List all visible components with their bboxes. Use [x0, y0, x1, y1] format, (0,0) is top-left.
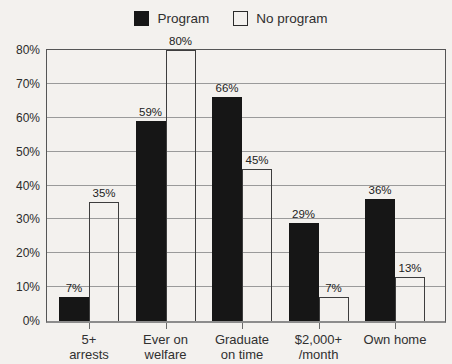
program-bar	[365, 199, 395, 321]
black-filled-square-icon	[134, 11, 149, 26]
program-bar	[212, 97, 242, 321]
bar-value-label: 36%	[358, 184, 402, 196]
no-program-bar	[319, 297, 349, 321]
no-program-bar	[395, 277, 425, 321]
bar-value-label: 66%	[205, 82, 249, 94]
program-bar	[59, 297, 89, 321]
gridline	[47, 151, 445, 152]
y-axis-label: 10%	[2, 280, 40, 294]
category-label: Own home	[349, 332, 441, 347]
y-axis-label: 30%	[2, 212, 40, 226]
chart-legend: Program No program	[10, 11, 452, 26]
program-bar	[289, 223, 319, 321]
y-axis-label: 50%	[2, 145, 40, 159]
white-outline-square-icon	[233, 11, 248, 26]
legend-item-no-program: No program	[233, 11, 327, 26]
bar-chart-plot-area: 0%10%20%30%40%50%60%70%80%7%35%5+ arrest…	[46, 49, 446, 323]
no-program-bar	[166, 50, 196, 321]
program-bar	[136, 121, 166, 321]
no-program-bar	[89, 202, 119, 321]
x-axis-tick	[319, 323, 320, 329]
x-axis-tick	[242, 323, 243, 329]
scanned-bar-chart-page: Program No program 0%10%20%30%40%50%60%7…	[0, 0, 452, 364]
legend-label-program: Program	[157, 11, 209, 26]
x-axis-tick	[166, 323, 167, 329]
x-axis-tick	[395, 323, 396, 329]
bar-value-label: 80%	[159, 35, 203, 47]
bar-value-label: 35%	[82, 187, 126, 199]
y-axis-label: 70%	[2, 77, 40, 91]
bar-value-label: 45%	[235, 154, 279, 166]
bar-value-label: 7%	[52, 282, 96, 294]
y-axis-label: 20%	[2, 246, 40, 260]
bar-value-label: 7%	[312, 282, 356, 294]
gridline	[47, 117, 445, 118]
x-axis-tick	[89, 323, 90, 329]
bar-value-label: 29%	[282, 208, 326, 220]
y-axis-label: 60%	[2, 111, 40, 125]
bar-value-label: 59%	[129, 106, 173, 118]
y-axis-label: 80%	[2, 43, 40, 57]
y-axis-label: 0%	[2, 314, 40, 328]
no-program-bar	[242, 169, 272, 321]
legend-item-program: Program	[134, 11, 209, 26]
y-axis-label: 40%	[2, 179, 40, 193]
legend-label-no-program: No program	[256, 11, 327, 26]
bar-value-label: 13%	[388, 262, 432, 274]
